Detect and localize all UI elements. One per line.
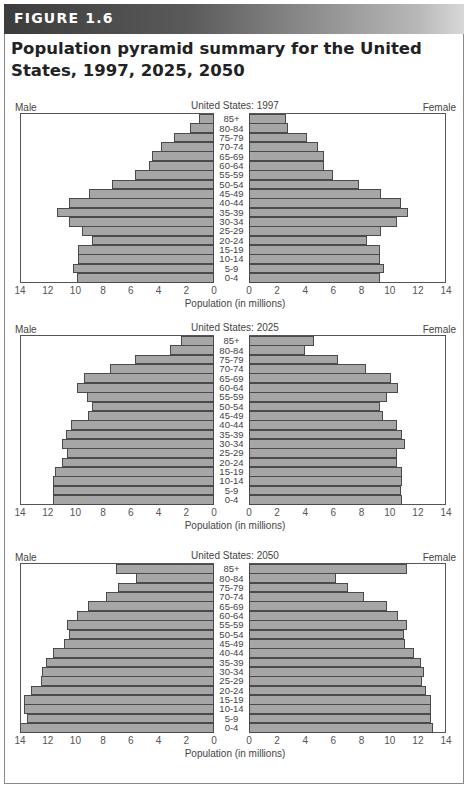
female-bar <box>249 723 433 733</box>
male-axis-tick: 0 <box>204 507 224 518</box>
male-axis-tick: 14 <box>10 285 30 296</box>
female-bar <box>249 564 407 574</box>
female-bar <box>249 448 397 458</box>
female-bar <box>249 142 318 152</box>
male-bar <box>135 355 214 365</box>
female-bar <box>249 467 402 477</box>
male-bar <box>62 439 214 449</box>
male-bar <box>135 170 214 180</box>
female-axis-tick: 14 <box>436 735 456 746</box>
male-axis-tick: 6 <box>121 507 141 518</box>
female-axis-tick: 10 <box>380 735 400 746</box>
figure-label: FIGURE 1.6 <box>14 10 114 26</box>
male-bar <box>20 723 214 733</box>
pyramid-2050: United States: 2050MaleFemale85+80-8475-… <box>0 550 470 770</box>
female-bar <box>249 695 431 705</box>
female-bar <box>249 151 324 161</box>
female-axis-tick: 4 <box>295 507 315 518</box>
male-axis-tick: 8 <box>93 285 113 296</box>
female-axis-tick: 12 <box>408 285 428 296</box>
female-axis-tick: 6 <box>323 507 343 518</box>
male-bar <box>110 364 214 374</box>
pyramid-title: United States: 2050 <box>0 550 470 561</box>
male-bar <box>82 226 214 236</box>
male-axis-tick: 2 <box>176 735 196 746</box>
female-axis-tick: 4 <box>295 285 315 296</box>
male-bar <box>106 592 214 602</box>
male-bar <box>152 151 214 161</box>
age-group-label: 0-4 <box>212 273 252 282</box>
male-bar <box>118 583 214 593</box>
pyramid-1997: United States: 1997MaleFemale85+80-8475-… <box>0 100 470 320</box>
age-group-label: 0-4 <box>212 495 252 504</box>
male-label: Male <box>15 552 37 563</box>
female-bar <box>249 495 402 505</box>
female-bar <box>249 217 397 227</box>
male-axis-tick: 4 <box>149 285 169 296</box>
male-bar <box>181 336 214 346</box>
male-bar <box>174 133 214 143</box>
female-bar <box>249 620 407 630</box>
male-axis-tick: 4 <box>149 735 169 746</box>
female-axis-tick: 0 <box>239 735 259 746</box>
male-axis-tick: 0 <box>204 735 224 746</box>
female-bar <box>249 198 401 208</box>
male-bar <box>77 273 214 283</box>
male-axis-tick: 4 <box>149 507 169 518</box>
male-bar <box>69 198 215 208</box>
female-axis-tick: 8 <box>352 735 372 746</box>
male-bar <box>53 648 214 658</box>
female-axis-tick: 12 <box>408 735 428 746</box>
female-bar <box>249 364 366 374</box>
pyramid-title: United States: 2025 <box>0 322 470 333</box>
female-bar <box>249 245 380 255</box>
figure-title: Population pyramid summary for the Unite… <box>11 38 451 82</box>
male-bar <box>161 142 214 152</box>
x-axis-label: Population (in millions) <box>0 520 470 531</box>
male-bar <box>78 245 214 255</box>
female-bar <box>249 601 387 611</box>
female-bar <box>249 336 314 346</box>
female-bar <box>249 114 286 124</box>
male-axis-tick: 14 <box>10 735 30 746</box>
male-axis-tick: 0 <box>204 285 224 296</box>
male-axis-tick: 12 <box>38 507 58 518</box>
male-bar <box>69 217 215 227</box>
female-label: Female <box>423 324 456 335</box>
male-bar <box>88 601 214 611</box>
male-axis-tick: 2 <box>176 507 196 518</box>
male-label: Male <box>15 102 37 113</box>
male-label: Male <box>15 324 37 335</box>
male-bar <box>116 564 214 574</box>
male-axis-tick: 12 <box>38 735 58 746</box>
female-bar <box>249 667 424 677</box>
male-axis-tick: 8 <box>93 507 113 518</box>
male-bar <box>55 467 214 477</box>
female-bar <box>249 648 414 658</box>
female-bar <box>249 226 381 236</box>
pyramid-title: United States: 1997 <box>0 100 470 111</box>
x-axis-label: Population (in millions) <box>0 298 470 309</box>
female-bar <box>249 439 405 449</box>
age-group-label: 0-4 <box>212 723 252 732</box>
female-axis-tick: 0 <box>239 285 259 296</box>
male-bar <box>67 620 214 630</box>
pyramid-2025: United States: 2025MaleFemale85+80-8475-… <box>0 322 470 542</box>
female-axis-tick: 2 <box>267 735 287 746</box>
female-axis-tick: 10 <box>380 285 400 296</box>
male-axis-tick: 2 <box>176 285 196 296</box>
male-bar <box>53 495 214 505</box>
female-bar <box>249 676 422 686</box>
female-bar <box>249 355 338 365</box>
figure-banner: FIGURE 1.6 <box>4 4 464 34</box>
male-axis-tick: 10 <box>65 507 85 518</box>
female-axis-tick: 2 <box>267 507 287 518</box>
female-axis-tick: 14 <box>436 285 456 296</box>
female-axis-tick: 10 <box>380 507 400 518</box>
female-bar <box>249 133 307 143</box>
female-bar <box>249 273 380 283</box>
female-bar <box>249 392 387 402</box>
female-axis-tick: 2 <box>267 285 287 296</box>
female-axis-tick: 12 <box>408 507 428 518</box>
male-bar <box>41 676 214 686</box>
